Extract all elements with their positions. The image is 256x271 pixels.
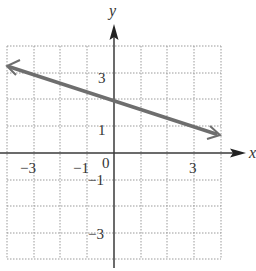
x-axis-label: x — [248, 144, 256, 161]
y-tick-label: 3 — [98, 70, 106, 86]
x-tick-label: −3 — [20, 160, 36, 176]
y-tick-label: 1 — [98, 122, 106, 138]
coordinate-plane: y x −3 −1 0 3 3 1 −1 −3 — [0, 0, 256, 271]
x-tick-label: −1 — [73, 160, 89, 176]
y-tick-label: −3 — [88, 226, 104, 242]
x-tick-label: 3 — [189, 160, 197, 176]
origin-label: 0 — [102, 155, 110, 171]
axes — [0, 24, 246, 268]
y-axis-label: y — [107, 2, 117, 20]
y-tick-label: −1 — [88, 172, 104, 188]
